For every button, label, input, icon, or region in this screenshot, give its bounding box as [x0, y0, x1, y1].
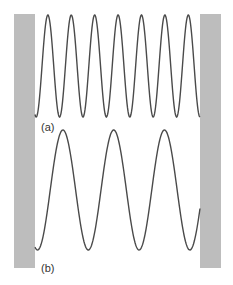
left-wall: [14, 14, 35, 268]
label-a: (a): [41, 122, 54, 133]
wave-a: [35, 15, 200, 117]
diagram-canvas: [0, 0, 233, 285]
right-wall: [200, 14, 221, 268]
label-b: (b): [41, 263, 54, 274]
standing-wave-diagram: (a) (b): [0, 0, 233, 285]
wave-b: [35, 130, 200, 250]
